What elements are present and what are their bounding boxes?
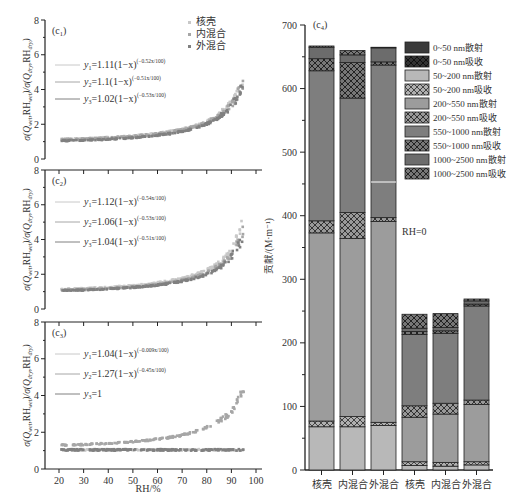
y-tick-label: 6 [34,199,39,210]
data-point [101,139,104,142]
y-axis-label: σ(Qwet,RHwet)/σ(Qdry,RHdry) [22,188,33,290]
bar-segment [340,417,365,427]
scatter-panels: 02468σ(Qwet,RHwet)/σ(Qdry,RHdry)(c1)y1=1… [22,15,264,495]
bar-segment [464,405,489,462]
data-point [161,283,164,286]
data-point [238,448,241,451]
data-point [101,442,104,445]
legend-label: 核壳 [196,15,216,27]
bar-segment [433,314,458,328]
data-point [63,289,66,292]
bar-segment [402,462,427,466]
data-point [240,220,243,223]
data-point [65,140,68,143]
bar-segment [340,427,365,470]
data-point [126,448,129,451]
fit-equation: y2=1.27(1−x)(−0.45x/100) [83,367,166,380]
bar-segment [402,331,427,334]
data-point [237,87,240,90]
data-point [231,257,234,260]
legend-swatch [405,70,429,81]
data-point [233,408,236,411]
data-point [231,250,234,253]
data-point [232,448,235,451]
data-point [242,80,245,83]
data-point [132,441,135,444]
x-axis-label: RH/% [136,483,161,494]
bar-segment [402,314,427,328]
data-point [179,281,182,284]
y-axis-label: σ(Qwet,RHwet)/σ(Qdry,RHdry) [22,344,33,446]
bar-segment [464,465,489,470]
bar-segment [464,299,489,301]
data-point [178,434,181,437]
data-point [79,448,82,451]
legend-marker [188,33,191,36]
bar-segment [371,218,396,222]
legend-swatch [405,168,429,179]
data-point [112,287,115,290]
bar-segment [309,427,334,470]
data-point [224,413,227,416]
bar-segment [371,422,396,425]
data-point [92,449,95,452]
data-point [229,104,232,107]
legend-marker [188,45,191,48]
data-point [111,448,114,451]
data-point [95,443,98,446]
y-tick-label: 2 [34,269,39,280]
bar-segment [309,47,334,58]
legend-label: 0~50 nm吸收 [433,56,483,67]
legend-label: 550~1000 nm散射 [433,126,501,137]
data-point [70,289,73,292]
data-point [213,118,216,121]
data-point [113,138,116,141]
x-tick-label: 核壳 [312,478,332,490]
data-point [232,242,235,245]
data-point [89,288,92,291]
data-point [76,448,79,451]
data-point [167,449,170,452]
x-tick-label: 90 [226,475,236,486]
panel-label: (c1) [52,25,66,37]
data-point [214,270,217,273]
data-point [80,139,83,142]
data-point [66,449,69,452]
data-point [72,444,75,447]
bar-segment [433,403,458,414]
y-tick-label: 4 [34,390,39,401]
data-point [139,440,142,443]
data-point [205,272,208,275]
bar-2 [371,47,396,470]
y-tick-label: 300 [282,274,297,285]
data-point [97,449,100,452]
data-point [108,442,111,445]
data-point [135,285,138,288]
y-tick-label: 0 [34,154,39,165]
data-point [165,133,168,136]
data-point [139,286,142,289]
data-point [211,448,214,451]
fit-equation: y3=1.02(1−x)(−0.53x/100) [83,92,166,105]
legend-swatch [405,112,429,123]
bar-segment [309,421,334,427]
y-tick-label: 6 [34,49,39,60]
bar-segment [340,50,365,54]
data-point [73,289,76,292]
data-point [122,448,125,451]
data-point [172,448,175,451]
y-tick-label: 2 [34,427,39,438]
bar-segment [309,221,334,233]
data-point [160,448,163,451]
data-point [119,137,122,140]
bar-segment [340,98,365,212]
data-point [142,286,145,289]
data-point [222,448,225,451]
data-point [127,137,130,140]
data-point [176,434,179,437]
data-point [186,448,189,451]
data-point [198,126,201,129]
data-point [170,436,173,439]
data-point [145,284,148,287]
data-point [239,85,242,88]
